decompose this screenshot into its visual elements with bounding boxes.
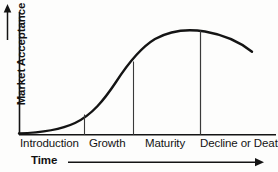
life-cycle-curve	[19, 30, 252, 133]
x-axis-title: Time	[31, 154, 57, 166]
stage-label-decline-or-death: Decline or Death	[200, 136, 278, 150]
y-axis-up-arrow-icon	[4, 4, 12, 40]
stage-label-maturity: Maturity	[145, 136, 185, 150]
x-axis-right-arrow-icon	[68, 158, 264, 166]
stage-label-growth: Growth	[89, 136, 125, 150]
y-axis-title: Market Acceptance	[15, 0, 27, 114]
product-life-cycle-chart: Market Acceptance Time Introduction Grow…	[0, 0, 278, 172]
stage-label-introduction: Introduction	[20, 136, 79, 150]
